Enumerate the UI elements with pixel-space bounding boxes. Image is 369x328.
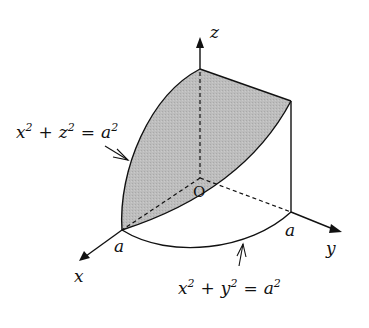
svg-text:x2+z2=a2: x2+z2=a2: [16, 121, 118, 142]
shaded-surface: [122, 69, 291, 230]
x-intercept-label: a: [114, 236, 124, 256]
equation-xy: x2+y2=a2: [178, 277, 281, 298]
z-axis-arrow-icon: [196, 37, 204, 48]
origin-label: O: [193, 183, 205, 201]
z-axis-label: z: [209, 22, 220, 42]
xz-pointer-head: [113, 149, 128, 160]
y-intercept-label: a: [285, 220, 295, 240]
equation-xz: x2+z2=a2: [16, 121, 118, 142]
y-axis-arrow-icon: [329, 224, 342, 233]
diagram-canvas: z x y O a a x2+z2=a2 x2+y2=a2: [0, 0, 369, 328]
y-axis-hidden: [200, 178, 291, 212]
y-axis-label: y: [325, 238, 336, 258]
y-axis: [291, 212, 333, 229]
x-axis-label: x: [74, 266, 84, 286]
x-axis-arrow-icon: [79, 251, 90, 261]
svg-text:x2+y2=a2: x2+y2=a2: [178, 277, 281, 298]
